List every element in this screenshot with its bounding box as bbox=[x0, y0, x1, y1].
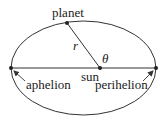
radius-line bbox=[67, 23, 100, 68]
angle-label: θ bbox=[102, 51, 109, 66]
orbit-svg: planet r θ sun aphelion perihelion bbox=[0, 0, 167, 125]
perihelion-point bbox=[154, 66, 158, 70]
radius-label: r bbox=[73, 38, 79, 53]
orbit-diagram: planet r θ sun aphelion perihelion bbox=[0, 0, 167, 125]
aphelion-label: aphelion bbox=[26, 77, 71, 92]
aphelion-arrow bbox=[14, 71, 25, 81]
planet-point bbox=[65, 21, 69, 25]
perihelion-label: perihelion bbox=[95, 77, 148, 92]
aphelion-point bbox=[9, 66, 13, 70]
planet-label: planet bbox=[52, 5, 84, 20]
